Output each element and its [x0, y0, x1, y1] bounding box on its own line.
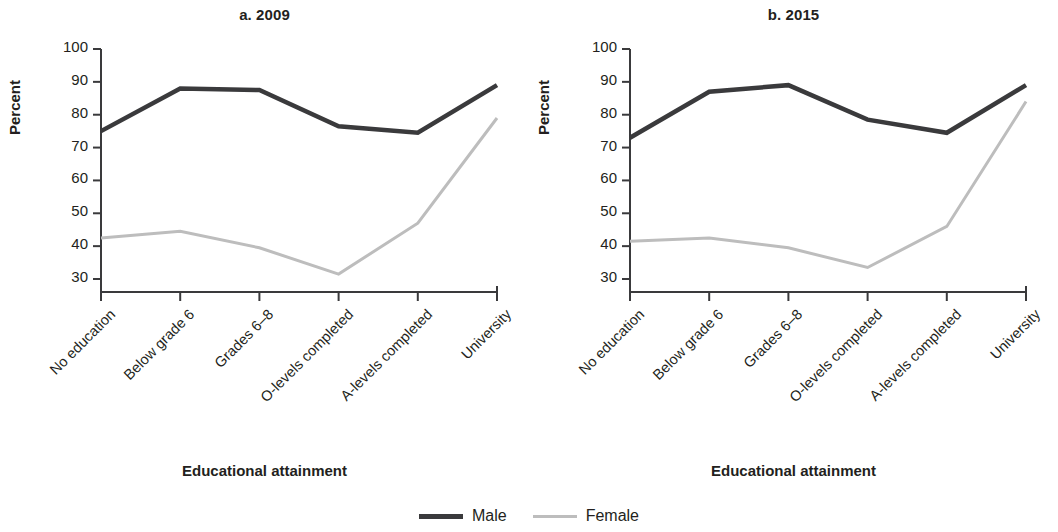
legend-item-female: Female — [533, 507, 639, 525]
figure-panels: a. 2009 Percent Educational attainment 3… — [0, 0, 1058, 532]
b-y-tick-label: 30 — [600, 268, 617, 285]
b-y-tick-label: 60 — [600, 169, 617, 186]
a-y-tick-label: 80 — [71, 104, 88, 121]
legend-item-male: Male — [419, 507, 507, 525]
b-y-tick-label: 80 — [600, 104, 617, 121]
a-series-male — [101, 85, 497, 133]
chart-b-x-axis-title: Educational attainment — [529, 462, 1058, 479]
legend-swatch-male-icon — [419, 514, 463, 519]
chart-a-x-axis-title: Educational attainment — [0, 462, 529, 479]
a-y-tick-label: 100 — [63, 38, 88, 55]
a-y-tick-label: 30 — [71, 268, 88, 285]
a-y-tick-label: 90 — [71, 71, 88, 88]
b-y-tick-label: 70 — [600, 137, 617, 154]
a-y-tick-label: 50 — [71, 202, 88, 219]
a-series-female — [101, 118, 497, 274]
a-y-tick-label: 70 — [71, 137, 88, 154]
a-y-tick-label: 40 — [71, 235, 88, 252]
b-y-tick-label: 100 — [592, 38, 617, 55]
legend-label-male: Male — [472, 507, 507, 525]
chart-panel-a: a. 2009 Percent Educational attainment 3… — [0, 0, 529, 500]
b-y-tick-label: 90 — [600, 71, 617, 88]
legend-swatch-female-icon — [533, 515, 577, 518]
b-series-female — [630, 102, 1026, 268]
b-y-tick-label: 50 — [600, 202, 617, 219]
chart-panel-b: b. 2015 Percent Educational attainment 3… — [529, 0, 1058, 500]
chart-legend: Male Female — [0, 500, 1058, 532]
b-series-male — [630, 85, 1026, 138]
legend-label-female: Female — [586, 507, 639, 525]
a-y-tick-label: 60 — [71, 169, 88, 186]
b-y-tick-label: 40 — [600, 235, 617, 252]
